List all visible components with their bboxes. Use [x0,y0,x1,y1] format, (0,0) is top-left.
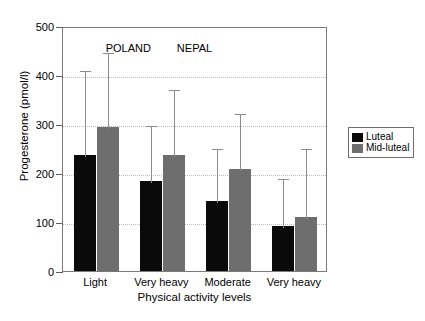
error-bar-cap [169,90,180,91]
bar-luteal [140,181,162,271]
plot-area [62,27,327,272]
legend-swatch-luteal [352,133,363,142]
bar-mid-luteal [97,127,119,271]
y-axis-tick-label: 300 [0,119,54,131]
legend-item-luteal: Luteal [352,132,409,142]
error-bar-cap [146,126,157,127]
legend: Luteal Mid-luteal [348,127,414,158]
error-bar-cap [212,149,223,150]
error-bar-line [174,90,175,157]
error-bar-line [306,149,307,219]
y-axis-tick-label: 400 [0,70,54,82]
bar-chart-figure: Progesterone (pmol/l) 0100200300400500 P… [0,0,425,321]
group-annotation-label: NEPAL [135,42,255,54]
error-bar-line [108,53,109,129]
legend-swatch-mid-luteal [352,144,363,153]
legend-label-luteal: Luteal [366,132,393,142]
legend-item-mid-luteal: Mid-luteal [352,143,409,153]
bar-mid-luteal [295,217,317,271]
error-bar-cap [80,71,91,72]
bar-luteal [272,226,294,271]
bar-luteal [74,155,96,271]
error-bar-line [85,71,86,157]
error-bar-line [151,126,152,183]
x-axis-tick-label: Very heavy [249,276,339,288]
y-axis-tick-label: 500 [0,21,54,33]
error-bar-cap [301,149,312,150]
error-bar-cap [235,114,246,115]
error-bar-line [217,149,218,203]
bar-luteal [206,201,228,271]
y-axis-tick [56,272,62,273]
y-axis-tick-label: 0 [0,266,54,278]
y-axis-tick-label: 100 [0,217,54,229]
bar-mid-luteal [163,155,185,271]
error-bar-line [240,114,241,171]
error-bar-cap [278,179,289,180]
y-axis-tick-label: 200 [0,168,54,180]
grid-line [63,77,326,78]
x-axis-title: Physical activity levels [62,291,327,303]
error-bar-line [283,179,284,228]
bar-mid-luteal [229,169,251,271]
legend-label-mid-luteal: Mid-luteal [366,143,409,153]
